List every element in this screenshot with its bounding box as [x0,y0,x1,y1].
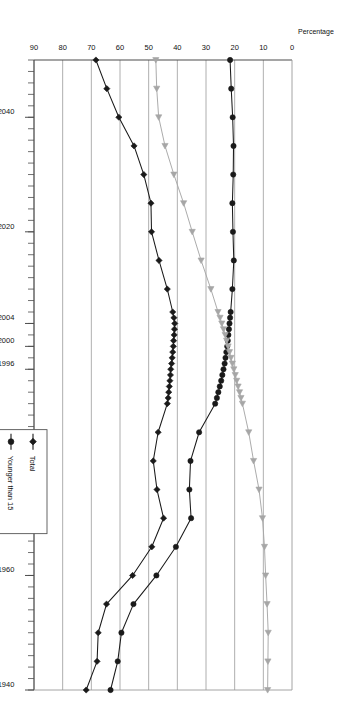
value-axis-title: Percentage [298,28,334,36]
data-point-marker [222,361,227,366]
data-point-marker [131,601,136,606]
data-point-marker [231,258,236,263]
value-tick-label-50: 50 [144,43,152,52]
value-tick-label-40: 40 [173,43,181,52]
data-point-marker [154,573,159,578]
data-point-marker [230,229,235,234]
data-point-marker [231,143,236,148]
data-point-marker [230,115,235,120]
rotated-figure-container: 0102030405060708090Percentage19401960198… [0,0,344,701]
data-point-marker [227,315,232,320]
legend-marker-circle-icon [8,439,14,445]
value-tick-label-30: 30 [202,43,210,52]
value-tick-label-20: 20 [230,43,238,52]
data-point-marker [188,458,193,463]
data-point-marker [226,327,231,332]
data-point-marker [119,630,124,635]
plot-area-background [34,60,292,690]
legend-label-0: Total [28,456,37,472]
data-point-marker [115,659,120,664]
value-tick-label-70: 70 [87,43,95,52]
data-point-marker [213,401,218,406]
legend-label-1: Younger than 15 [6,456,15,511]
data-point-marker [214,395,219,400]
data-point-marker [230,201,235,206]
year-tick-label-2004: 2004 [0,313,14,322]
data-point-marker [223,355,228,360]
data-point-marker [231,172,236,177]
data-point-marker [187,487,192,492]
data-point-marker [196,430,201,435]
data-point-marker [227,57,232,62]
year-tick-label-1996: 1996 [0,359,14,368]
value-tick-label-60: 60 [116,43,124,52]
chart-screenshot: 0102030405060708090Percentage19401960198… [0,0,344,701]
value-tick-label-90: 90 [30,43,38,52]
year-tick-label-1960: 1960 [0,565,14,574]
data-point-marker [221,367,226,372]
value-tick-label-10: 10 [259,43,267,52]
year-tick-label-2040: 2040 [0,107,14,116]
data-point-marker [220,372,225,377]
data-point-marker [8,439,14,445]
value-tick-label-0: 0 [290,43,294,52]
data-point-marker [188,516,193,521]
data-point-marker [230,286,235,291]
data-point-marker [216,390,221,395]
year-tick-label-2000: 2000 [0,336,14,345]
population-percentage-line-chart: 0102030405060708090Percentage19401960198… [0,0,344,701]
data-point-marker [229,86,234,91]
data-point-marker [217,384,222,389]
value-tick-label-80: 80 [58,43,66,52]
year-tick-label-1940: 1940 [0,680,14,689]
data-point-marker [108,687,113,692]
year-tick-label-2020: 2020 [0,222,14,231]
data-point-marker [173,544,178,549]
data-point-marker [219,378,224,383]
data-point-marker [227,321,232,326]
data-point-marker [228,309,233,314]
